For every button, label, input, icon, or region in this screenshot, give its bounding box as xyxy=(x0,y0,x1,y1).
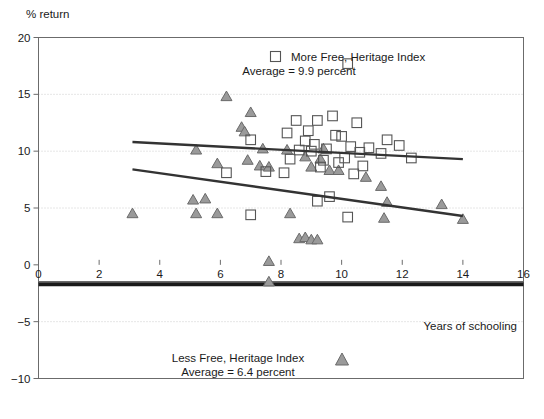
data-point-square xyxy=(334,158,344,168)
y-axis-ticks: 20151050−5−10 xyxy=(11,32,39,385)
x-axis-ticks: 0246810121416 xyxy=(35,260,530,280)
data-point-square xyxy=(352,118,362,128)
legend-more-free-line1: More Free, Heritage Index xyxy=(291,51,425,63)
data-point-square xyxy=(303,126,313,136)
data-point-triangle xyxy=(188,194,199,204)
data-point-triangle xyxy=(360,172,371,182)
legend-less-free: Less Free, Heritage Index Average = 6.4 … xyxy=(172,352,349,378)
less-free-trend xyxy=(132,169,462,216)
data-point-triangle xyxy=(245,107,256,117)
legend-less-free-line2: Average = 6.4 percent xyxy=(181,366,295,378)
y-tick-label-15: 15 xyxy=(18,88,31,100)
data-point-triangle xyxy=(263,256,274,266)
data-point-square xyxy=(313,196,323,206)
data-point-square xyxy=(376,149,386,159)
x-tick-label-6: 6 xyxy=(217,268,223,280)
data-point-triangle xyxy=(127,208,138,218)
data-point-triangle xyxy=(212,158,223,168)
data-point-square xyxy=(407,153,417,163)
y-tick-label-20: 20 xyxy=(18,32,31,44)
data-point-square xyxy=(382,135,392,145)
data-point-square xyxy=(316,162,326,172)
x-tick-label-4: 4 xyxy=(157,268,164,280)
x-tick-label-0: 0 xyxy=(35,268,41,280)
data-point-triangle xyxy=(376,181,387,191)
more-free-trend xyxy=(132,142,462,159)
filled-triangle-marker-icon xyxy=(336,353,349,365)
data-point-square xyxy=(282,128,292,138)
data-point-square xyxy=(246,210,256,220)
data-point-square xyxy=(343,212,353,222)
data-point-square xyxy=(349,169,359,179)
data-point-square xyxy=(337,132,347,142)
data-point-triangle xyxy=(191,208,202,218)
data-point-triangle xyxy=(200,193,211,203)
data-point-square xyxy=(328,111,338,121)
open-square-marker-icon xyxy=(271,52,281,62)
x-tick-label-2: 2 xyxy=(96,268,102,280)
y-tick-label--5: −5 xyxy=(17,316,30,328)
data-point-square xyxy=(313,116,323,126)
data-point-square xyxy=(261,167,271,177)
legend-more-free-line2: Average = 9.9 percent xyxy=(242,65,356,77)
y-axis-title: % return xyxy=(26,8,69,20)
data-point-triangle xyxy=(221,91,232,101)
data-point-square xyxy=(358,161,368,171)
legend-more-free: More Free, Heritage Index Average = 9.9 … xyxy=(242,51,425,77)
data-point-square xyxy=(222,168,232,178)
data-point-square xyxy=(246,135,256,145)
data-point-square xyxy=(285,154,295,164)
data-point-triangle xyxy=(285,208,296,218)
x-tick-label-14: 14 xyxy=(456,268,469,280)
data-point-square xyxy=(346,142,356,152)
data-point-square xyxy=(279,168,289,178)
data-point-triangle xyxy=(379,213,390,223)
x-tick-label-8: 8 xyxy=(278,268,284,280)
chart-container: % return 20151050−5−10 0246810121416 Yea… xyxy=(0,0,544,419)
data-point-square xyxy=(300,136,310,146)
x-tick-label-12: 12 xyxy=(396,268,409,280)
x-axis-title: Years of schooling xyxy=(423,320,517,332)
data-point-square xyxy=(355,148,365,158)
x-tick-label-16: 16 xyxy=(517,268,530,280)
data-point-triangle xyxy=(212,208,223,218)
y-tick-label-0: 0 xyxy=(24,259,30,271)
data-point-square xyxy=(364,143,374,153)
data-point-square xyxy=(291,116,301,126)
legend-less-free-line1: Less Free, Heritage Index xyxy=(172,352,305,364)
gridlines xyxy=(39,94,524,321)
x-tick-label-10: 10 xyxy=(335,268,348,280)
y-tick-label-5: 5 xyxy=(24,202,30,214)
y-tick-label--10: −10 xyxy=(11,373,31,385)
data-point-triangle xyxy=(436,199,447,209)
data-point-square xyxy=(394,141,404,151)
y-tick-label-10: 10 xyxy=(18,145,31,157)
scatter-plot-svg: % return 20151050−5−10 0246810121416 Yea… xyxy=(0,0,544,419)
data-point-triangle xyxy=(242,155,253,165)
